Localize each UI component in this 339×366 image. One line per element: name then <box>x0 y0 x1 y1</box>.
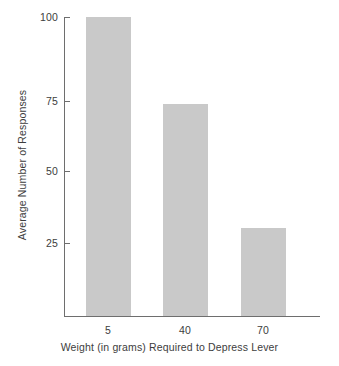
y-tick-mark-50 <box>64 171 70 172</box>
y-tick-label-25: 25 <box>24 237 58 249</box>
x-axis-line <box>64 316 320 317</box>
y-tick-mark-100 <box>64 17 70 18</box>
y-tick-mark-75 <box>64 101 70 102</box>
x-tick-label-70: 70 <box>243 324 283 336</box>
x-axis-title: Weight (in grams) Required to Depress Le… <box>0 341 339 354</box>
y-tick-label-100: 100 <box>24 11 58 23</box>
y-tick-mark-25 <box>64 243 70 244</box>
bar-category-5 <box>86 17 131 316</box>
y-tick-label-50: 50 <box>24 165 58 177</box>
x-tick-label-5: 5 <box>88 324 128 336</box>
bar-category-70 <box>241 228 286 316</box>
x-tick-label-40: 40 <box>165 324 205 336</box>
y-tick-label-75: 75 <box>24 95 58 107</box>
bar-chart-figure: Average Number of Responses 100 75 50 25… <box>0 0 339 366</box>
bar-category-40 <box>163 104 208 316</box>
y-axis-line <box>64 17 65 317</box>
